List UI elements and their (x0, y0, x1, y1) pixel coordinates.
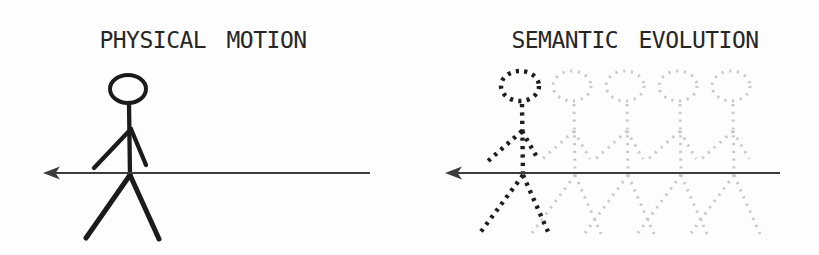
right-panel-arrow (445, 167, 780, 180)
head-icon (110, 75, 146, 103)
ghost-stick-figure-3 (638, 71, 707, 234)
dotted-stick-figure (480, 71, 549, 234)
ghost-stick-figure-4 (691, 71, 760, 234)
stick-figure-diagram (0, 0, 819, 255)
left-arm-line (94, 129, 131, 168)
diagram-canvas: PHYSICAL MOTION SEMANTIC EVOLUTION (0, 0, 819, 255)
torso-line (129, 103, 130, 177)
right-arm-line (131, 129, 146, 165)
ghost-stick-figure-1 (532, 71, 601, 234)
ghost-stick-figure-2 (585, 71, 654, 234)
right-leg-line (130, 175, 159, 239)
ghost-stick-figures (532, 71, 760, 234)
left-leg-line (86, 175, 130, 238)
solid-stick-figure (86, 75, 159, 239)
